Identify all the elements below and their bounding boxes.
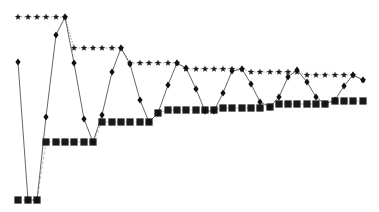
square-marker-icon bbox=[80, 138, 87, 145]
star-marker-icon bbox=[220, 66, 226, 72]
diamond-marker-icon bbox=[257, 99, 262, 106]
star-marker-icon bbox=[248, 69, 254, 75]
square-marker-icon bbox=[126, 118, 133, 125]
square-marker-icon bbox=[312, 100, 319, 107]
star-marker-icon bbox=[99, 45, 105, 51]
diamond-marker-icon bbox=[165, 82, 170, 89]
star-marker-icon bbox=[313, 72, 319, 78]
square-marker-icon bbox=[228, 104, 235, 111]
square-marker-icon bbox=[247, 104, 254, 111]
star-marker-icon bbox=[34, 14, 40, 20]
square-marker-icon bbox=[61, 138, 68, 145]
star-marker-icon bbox=[211, 66, 217, 72]
star-marker-icon bbox=[276, 69, 282, 75]
star-marker-icon bbox=[25, 14, 31, 20]
diamond-marker-icon bbox=[53, 32, 58, 39]
star-marker-icon bbox=[304, 72, 310, 78]
star-marker-icon bbox=[341, 72, 347, 78]
star-marker-icon bbox=[109, 45, 115, 51]
series-line-running-min bbox=[18, 101, 363, 200]
square-marker-icon bbox=[238, 104, 245, 111]
star-marker-icon bbox=[155, 60, 161, 66]
square-marker-icon bbox=[182, 106, 189, 113]
diamond-marker-icon bbox=[137, 97, 142, 104]
diamond-marker-icon bbox=[193, 86, 198, 93]
square-marker-icon bbox=[117, 118, 124, 125]
square-marker-icon bbox=[219, 104, 226, 111]
diamond-marker-icon bbox=[71, 60, 76, 67]
star-marker-icon bbox=[202, 66, 208, 72]
square-marker-icon bbox=[192, 106, 199, 113]
star-marker-icon bbox=[193, 66, 199, 72]
diamond-marker-icon bbox=[220, 90, 225, 97]
diamond-marker-icon bbox=[109, 69, 114, 76]
square-marker-icon bbox=[136, 118, 143, 125]
star-marker-icon bbox=[257, 69, 263, 75]
star-marker-icon bbox=[332, 72, 338, 78]
star-marker-icon bbox=[53, 14, 59, 20]
diamond-marker-icon bbox=[99, 112, 104, 119]
square-marker-icon bbox=[256, 104, 263, 111]
star-marker-icon bbox=[137, 60, 143, 66]
star-marker-icon bbox=[15, 14, 21, 20]
star-marker-icon bbox=[90, 45, 96, 51]
series-lines bbox=[18, 17, 363, 200]
square-marker-icon bbox=[284, 100, 291, 107]
square-marker-icon bbox=[108, 118, 115, 125]
square-marker-icon bbox=[275, 100, 282, 107]
square-marker-icon bbox=[340, 97, 347, 104]
square-marker-icon bbox=[42, 138, 49, 145]
diamond-marker-icon bbox=[43, 114, 48, 121]
series-line-running-max bbox=[18, 17, 363, 80]
square-marker-icon bbox=[293, 100, 300, 107]
line-chart bbox=[0, 0, 379, 212]
series-line-current bbox=[18, 17, 363, 200]
square-marker-icon bbox=[359, 97, 366, 104]
square-marker-icon bbox=[173, 106, 180, 113]
star-marker-icon bbox=[146, 60, 152, 66]
square-marker-icon bbox=[349, 97, 356, 104]
star-marker-icon bbox=[81, 45, 87, 51]
square-marker-icon bbox=[98, 118, 105, 125]
diamond-marker-icon bbox=[183, 65, 188, 72]
star-marker-icon bbox=[165, 60, 171, 66]
diamond-marker-icon bbox=[81, 116, 86, 123]
diamond-marker-icon bbox=[15, 59, 20, 66]
star-marker-icon bbox=[322, 72, 328, 78]
star-marker-icon bbox=[267, 69, 273, 75]
star-marker-icon bbox=[43, 14, 49, 20]
square-marker-icon bbox=[164, 106, 171, 113]
square-marker-icon bbox=[303, 100, 310, 107]
series-markers bbox=[14, 14, 366, 204]
square-marker-icon bbox=[14, 196, 21, 203]
square-marker-icon bbox=[52, 138, 59, 145]
square-marker-icon bbox=[70, 138, 77, 145]
